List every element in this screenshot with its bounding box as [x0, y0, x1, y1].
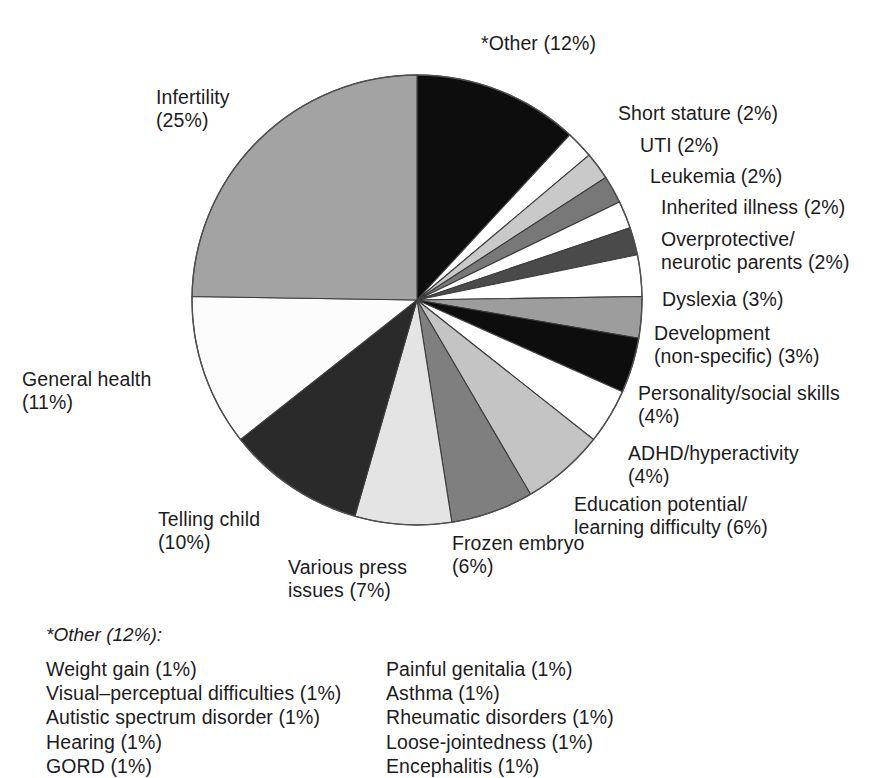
other-breakdown-item: Asthma (1%): [386, 681, 786, 705]
other-breakdown-item: Loose-jointedness (1%): [386, 730, 786, 754]
other-breakdown-item: Visual–perceptual difficulties (1%): [46, 681, 386, 705]
other-breakdown-item: Hearing (1%): [46, 730, 386, 754]
other-breakdown-item: Rheumatic disorders (1%): [386, 705, 786, 729]
other-breakdown-item: Painful genitalia (1%): [386, 657, 786, 681]
other-breakdown-item: Weight gain (1%): [46, 657, 386, 681]
pie-label-short-stature: Short stature (2%): [618, 102, 778, 125]
pie-label-personality: Personality/social skills (4%): [638, 382, 840, 428]
other-breakdown-block: *Other (12%): Weight gain (1%)Visual–per…: [46, 624, 866, 778]
other-breakdown-item: GORD (1%): [46, 754, 386, 778]
other-breakdown-item: Encephalitis (1%): [386, 754, 786, 778]
pie-label-uti: UTI (2%): [640, 134, 719, 157]
pie-label-development: Development (non-specific) (3%): [654, 322, 820, 368]
pie-label-overprotective: Overprotective/ neurotic parents (2%): [661, 228, 850, 274]
other-breakdown-columns: Weight gain (1%)Visual–perceptual diffic…: [46, 657, 866, 778]
pie-label-general-health: General health (11%): [22, 368, 151, 414]
pie-label-infertility: Infertility (25%): [156, 86, 230, 132]
pie-label-various-press: Various press issues (7%): [288, 556, 407, 602]
other-breakdown-item: Autistic spectrum disorder (1%): [46, 705, 386, 729]
other-breakdown-column-right: Painful genitalia (1%)Asthma (1%)Rheumat…: [386, 657, 786, 778]
other-breakdown-heading: *Other (12%):: [46, 624, 866, 646]
other-breakdown-column-left: Weight gain (1%)Visual–perceptual diffic…: [46, 657, 386, 778]
pie-label-leukemia: Leukemia (2%): [650, 165, 782, 188]
pie-label-education: Education potential/ learning difficulty…: [574, 493, 768, 539]
pie-slice-group: [192, 75, 642, 525]
pie-label-frozen-embryo: Frozen embryo (6%): [452, 532, 584, 578]
pie-label-adhd: ADHD/hyperactivity (4%): [628, 442, 799, 488]
pie-label-other: *Other (12%): [481, 32, 596, 55]
pie-label-inherited-illness: Inherited illness (2%): [661, 196, 845, 219]
pie-label-telling-child: Telling child (10%): [158, 508, 260, 554]
pie-label-dyslexia: Dyslexia (3%): [662, 288, 784, 311]
